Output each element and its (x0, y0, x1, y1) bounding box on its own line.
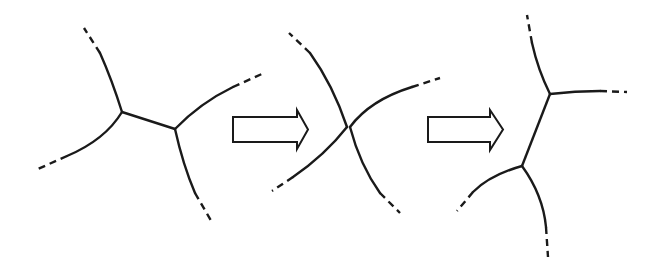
edge-solid (67, 112, 122, 156)
stage-initial (38, 28, 264, 224)
edge-dashed-continuation (195, 193, 213, 224)
transition-arrow-2-icon (428, 110, 503, 150)
edge-solid (350, 87, 412, 127)
edge-solid (522, 94, 550, 166)
edge-dashed-continuation (84, 28, 100, 53)
edge-dashed-continuation (457, 192, 473, 211)
edge-dashed-continuation (289, 33, 310, 53)
diagram-arrows (233, 110, 503, 150)
edge-solid (522, 166, 546, 227)
edge-dashed-continuation (233, 73, 264, 87)
edge-dashed-continuation (38, 156, 67, 169)
transition-arrow-1-icon (233, 110, 308, 149)
edge-solid (175, 87, 233, 129)
edge-dashed-continuation (527, 15, 532, 43)
t1-transition-diagram (0, 0, 654, 270)
edge-dashed-continuation (272, 177, 293, 191)
edge-dashed-continuation (412, 78, 440, 87)
edge-solid (175, 129, 195, 193)
edge-dashed-continuation (546, 227, 548, 257)
edge-solid (350, 127, 380, 193)
edge-solid (473, 166, 522, 192)
edge-solid (310, 53, 347, 127)
edge-solid (532, 43, 550, 94)
diagram-stages (38, 15, 627, 257)
edge-dashed-continuation (600, 91, 627, 92)
edge-dashed-continuation (380, 193, 400, 213)
edge-solid (550, 91, 600, 94)
edge-solid (122, 112, 175, 129)
edge-solid (100, 53, 122, 112)
